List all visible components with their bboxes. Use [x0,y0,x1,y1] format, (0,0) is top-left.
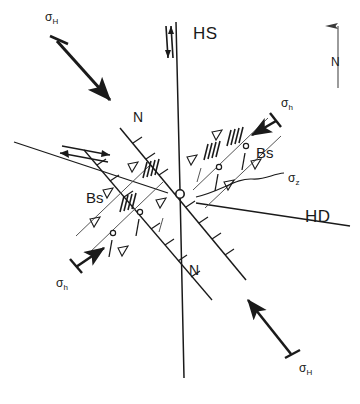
sigma-h-lower-left-label: σh [56,277,68,292]
label-normal-fault-upper: N [133,110,143,124]
sigma-subscript: h [288,103,292,112]
center-intersection-circle [176,190,184,198]
sigma-z-leader-line [196,173,284,197]
structural-diagram-svg [0,0,360,404]
sigma-h-arrow-lower-left [70,248,104,273]
label-bookshelf-upper-right: Bs [256,145,274,160]
bookshelf-hatch-bars-upper [204,127,243,160]
label-bookshelf-lower-left: Bs [86,190,104,205]
sigma-h-upper-right-label: σh [281,97,293,112]
compass-north-label: N [331,56,340,68]
sigma-subscript: z [295,178,299,187]
hs-shear-arrows [165,26,174,58]
sigma-H-arrow-lower-right [248,300,300,358]
sigma-subscript: H [52,17,58,26]
bookshelf-upper-right [187,118,281,208]
sigma-H-lower-right-label: σH [299,362,312,377]
sigma-subscript: H [306,368,312,377]
sigma-subscript: h [63,283,67,292]
sigma-h-arrow-upper-right [252,113,281,135]
sigma-z-label: σz [288,172,299,187]
bookshelf-lower-left [76,159,166,257]
figure-canvas: HS HD N N Bs Bs N σH σh σz σh σH [0,0,360,404]
label-hs: HS [193,25,218,42]
sigma-H-upper-left-label: σH [45,11,58,26]
label-hd: HD [305,208,331,225]
bookshelf-stems-upper [215,153,245,191]
bookshelf-stems-lower [109,219,139,257]
label-normal-fault-lower: N [189,263,199,277]
sigma-H-arrow-upper-left [50,36,110,100]
